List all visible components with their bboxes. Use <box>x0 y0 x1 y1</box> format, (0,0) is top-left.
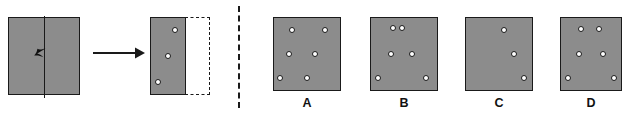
folded-hole <box>172 27 178 33</box>
option-a-hole <box>322 27 328 33</box>
option-d-hole <box>611 75 617 81</box>
fold-direction-arrowhead-icon <box>30 45 48 63</box>
option-b-hole <box>399 25 405 31</box>
folded-piece <box>150 17 186 95</box>
option-d-hole <box>596 26 602 32</box>
option-d-hole <box>576 51 582 57</box>
option-b-hole <box>409 51 415 57</box>
option-a-hole <box>277 75 283 81</box>
option-a-hole <box>312 51 318 57</box>
puzzle-figure: A B C D <box>0 0 630 114</box>
option-d-hole <box>565 75 571 81</box>
option-a-square[interactable] <box>273 17 341 91</box>
option-d-label: D <box>560 97 622 110</box>
option-a-hole <box>286 51 292 57</box>
option-c-hole <box>501 27 507 33</box>
folded-hole <box>155 79 161 85</box>
option-b-hole <box>423 75 429 81</box>
option-d-square[interactable] <box>560 17 622 91</box>
option-c-label: C <box>465 97 533 110</box>
option-a-hole <box>289 27 295 33</box>
option-b-square[interactable] <box>370 17 438 91</box>
option-b-hole <box>388 51 394 57</box>
transform-arrow-icon <box>93 45 145 61</box>
folded-hole <box>165 53 171 59</box>
option-b-hole <box>390 25 396 31</box>
option-a-label: A <box>273 97 341 110</box>
option-a-hole <box>304 75 310 81</box>
ghost-unfolded-half <box>185 17 210 95</box>
option-c-square[interactable] <box>465 17 533 91</box>
option-b-hole <box>375 75 381 81</box>
option-d-hole <box>578 26 584 32</box>
start-square <box>8 17 80 95</box>
panel-divider <box>238 6 240 108</box>
option-c-hole <box>511 51 517 57</box>
option-d-hole <box>600 51 606 57</box>
option-b-label: B <box>370 97 438 110</box>
option-c-hole <box>521 75 527 81</box>
